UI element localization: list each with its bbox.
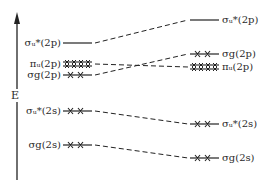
- right-label-sigma-u-star-2p: σᵤ*(2p): [222, 14, 258, 25]
- energy-axis-label: E: [10, 89, 20, 102]
- connector-pi-u-2p: [95, 64, 188, 67]
- left-label-sigma-g-2p: σg(2p): [27, 69, 61, 80]
- right-level-sigma-g-2p: [190, 51, 219, 57]
- connector-sigma-g-2s: [95, 145, 188, 158]
- right-level-sigma-u-star-2s: [190, 121, 219, 127]
- right-label-pi-u-2p: πᵤ(2p): [222, 61, 253, 72]
- correlation-lines: [95, 20, 188, 158]
- right-label-sigma-g-2s: σg(2s): [222, 152, 255, 163]
- right-level-sigma-g-2s: [190, 155, 219, 161]
- left-label-pi-u-2p: πᵤ(2p): [30, 58, 61, 69]
- left-label-sigma-u-star-2s: σᵤ*(2s): [26, 105, 61, 116]
- left-level-sigma-u-star-2s: [63, 108, 92, 114]
- left-level-sigma-g-2s: [63, 142, 92, 148]
- right-level-pi-u-2p: [190, 63, 219, 71]
- connector-sigma-u-star-2p: [95, 20, 188, 43]
- right-label-sigma-u-star-2s: σᵤ*(2s): [222, 118, 257, 129]
- connector-sigma-g-2p: [95, 54, 188, 75]
- left-label-sigma-u-star-2p: σᵤ*(2p): [25, 37, 61, 48]
- left-level-pi-u-2p: [63, 60, 92, 68]
- left-label-sigma-g-2s: σg(2s): [28, 139, 61, 150]
- right-label-sigma-g-2p: σg(2p): [222, 48, 256, 59]
- connector-sigma-u-star-2s: [95, 111, 188, 124]
- left-level-sigma-g-2p: [63, 72, 92, 78]
